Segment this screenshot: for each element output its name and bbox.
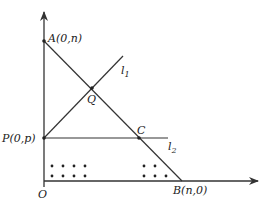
point-p	[42, 136, 46, 140]
point-a	[42, 39, 46, 43]
label-o: O	[38, 188, 47, 201]
label-q: Q	[87, 93, 96, 106]
label-l1: l1	[121, 64, 130, 79]
lattice-dots-left	[51, 165, 87, 178]
label-a: A(0,n)	[47, 32, 82, 45]
label-l2: l2	[168, 140, 177, 155]
line-l1	[44, 56, 123, 138]
point-q	[90, 86, 94, 90]
lattice-dots-right	[143, 165, 168, 178]
label-b: B(n,0)	[172, 184, 207, 197]
label-c: C	[137, 124, 146, 137]
line-ab	[44, 41, 182, 181]
label-p: P(0,p)	[1, 132, 36, 145]
coordinate-diagram: A(0,n) P(0,p) Q C O B(n,0) l1 l2	[0, 0, 267, 209]
